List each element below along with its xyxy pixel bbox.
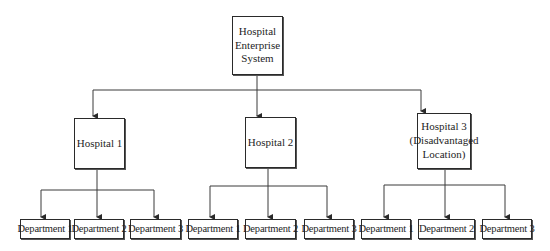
- department-label: Department 3: [128, 222, 183, 235]
- root-node-line-2: Enterprise: [235, 39, 280, 53]
- hospital-3-department-3: Department 3: [482, 219, 532, 239]
- root-node-hospital-enterprise-system: Hospital Enterprise System: [232, 16, 283, 75]
- hospital-1-department-2: Department 2: [74, 219, 124, 239]
- org-chart-diagram: Hospital Enterprise System Hospital 1 Ho…: [0, 0, 550, 251]
- hospital-1-node: Hospital 1: [74, 118, 125, 169]
- department-label: Department 2: [419, 222, 474, 235]
- department-label: Department 2: [71, 222, 126, 235]
- department-label: Department 1: [185, 222, 240, 235]
- hospital-1-department-1: Department 1: [20, 219, 70, 239]
- hospital-3-line-2: (Disadvantaged: [409, 134, 478, 148]
- hospital-3-node: Hospital 3 (Disadvantaged Location): [417, 113, 471, 169]
- hospital-3-line-1: Hospital 3: [409, 120, 478, 134]
- department-label: Department 3: [479, 222, 534, 235]
- hospital-2-department-2: Department 2: [245, 219, 296, 239]
- root-node-line-1: Hospital: [235, 25, 280, 39]
- department-label: Department 3: [301, 222, 356, 235]
- department-label: Department 2: [243, 222, 298, 235]
- hospital-2-node: Hospital 2: [245, 117, 296, 168]
- department-label: Department 1: [17, 222, 72, 235]
- hospital-1-department-3: Department 3: [130, 219, 181, 239]
- hospital-3-department-1: Department 1: [361, 219, 411, 239]
- root-node-line-3: System: [235, 52, 280, 66]
- hospital-2-department-3: Department 3: [304, 219, 354, 239]
- hospital-1-label: Hospital 1: [77, 137, 123, 151]
- hospital-2-label: Hospital 2: [248, 136, 294, 150]
- hospital-2-department-1: Department 1: [188, 219, 238, 239]
- hospital-3-department-2: Department 2: [418, 219, 475, 239]
- department-label: Department 1: [358, 222, 413, 235]
- hospital-3-line-3: Location): [409, 148, 478, 162]
